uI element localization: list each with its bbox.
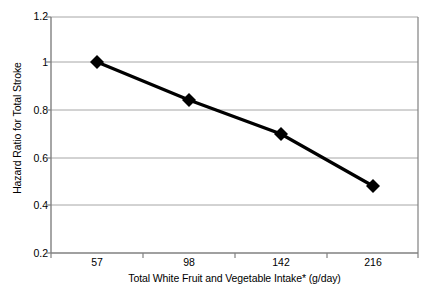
plot-area <box>0 0 431 298</box>
x-axis-title: Total White Fruit and Vegetable Intake* … <box>51 272 418 284</box>
y-axis-ticks <box>46 17 51 253</box>
chart-container: Hazard Ratio for Total Stroke 1.2 1 0.8 … <box>0 0 431 298</box>
plot-background <box>51 17 418 253</box>
x-axis-ticks <box>51 253 418 258</box>
